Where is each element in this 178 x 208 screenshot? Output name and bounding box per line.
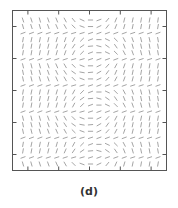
field-segment (48, 77, 50, 81)
field-segment (80, 150, 84, 153)
field-segment (56, 38, 57, 42)
field-segment (39, 64, 40, 68)
field-segment (149, 18, 150, 22)
field-segment (106, 45, 110, 48)
field-segment (23, 142, 24, 146)
field-segment (31, 116, 32, 120)
field-segment (80, 97, 84, 100)
field-segment (64, 25, 66, 29)
field-segment (147, 137, 151, 138)
field-segment (124, 64, 126, 68)
field-segment (139, 32, 143, 33)
field-segment (72, 32, 76, 33)
field-segment (149, 149, 150, 153)
field-segment (122, 111, 126, 113)
field-segment (22, 116, 23, 120)
field-segment (72, 77, 75, 80)
field-segment (123, 38, 125, 42)
field-segment (124, 129, 126, 133)
field-segment (114, 137, 118, 139)
field-segment (73, 103, 75, 107)
field-segment (141, 38, 142, 42)
field-segment (106, 117, 109, 120)
field-segment (21, 85, 25, 87)
field-segment (149, 123, 150, 127)
field-segment (122, 59, 126, 61)
field-segment (31, 64, 32, 68)
field-segment (105, 39, 109, 41)
field-segment (31, 162, 32, 166)
field-segment (97, 111, 101, 113)
field-segment (72, 85, 76, 86)
field-segment (114, 143, 117, 146)
field-segment (115, 116, 117, 120)
field-segment (23, 123, 24, 127)
field-segment (72, 123, 76, 126)
field-segment (80, 117, 84, 119)
field-segment (39, 51, 40, 55)
field-segment (132, 38, 134, 42)
field-segment (114, 85, 118, 87)
field-segment (64, 103, 66, 107)
field-segment (131, 137, 135, 138)
field-segment (64, 149, 66, 153)
field-segment (39, 44, 40, 48)
field-segment (115, 44, 118, 48)
field-segment (48, 64, 50, 68)
field-segment (55, 111, 59, 112)
field-segment (80, 131, 84, 133)
field-segment (72, 59, 76, 60)
field-segment (23, 77, 24, 81)
field-segment (124, 18, 125, 22)
field-segment (72, 117, 75, 120)
field-segment (149, 44, 150, 48)
field-segment (29, 157, 33, 159)
field-segment (63, 85, 67, 86)
field-segment (97, 117, 101, 119)
field-segment (64, 162, 66, 166)
field-segment (72, 64, 75, 67)
field-segment (97, 59, 101, 61)
field-segment (156, 32, 160, 34)
field-segment (23, 103, 24, 107)
field-segment (64, 123, 66, 127)
field-segment (23, 96, 24, 100)
field-segment (149, 77, 150, 81)
field-segment (158, 77, 159, 81)
field-segment (158, 142, 159, 146)
field-segment (122, 85, 126, 87)
field-segment (141, 24, 142, 28)
field-segment (31, 90, 32, 94)
field-segment (156, 85, 160, 87)
field-segment (115, 149, 118, 153)
field-segment (81, 38, 84, 41)
field-segment (29, 111, 33, 113)
field-segment (158, 103, 159, 107)
field-segment (31, 77, 32, 81)
field-segment (39, 123, 40, 127)
field-segment (147, 157, 151, 158)
field-segment (106, 150, 110, 153)
field-segment (105, 111, 109, 113)
field-segment (114, 104, 117, 107)
field-segment (105, 157, 109, 159)
field-segment (156, 59, 160, 61)
field-segment (81, 51, 84, 54)
field-segment (131, 157, 135, 158)
field-segment (124, 116, 126, 120)
field-segment (149, 70, 150, 74)
field-segment (156, 111, 160, 113)
field-segment (105, 32, 109, 34)
field-segment (149, 162, 150, 166)
field-segment (64, 142, 66, 146)
field-segment (31, 123, 32, 127)
field-segment (132, 24, 133, 28)
field-segment (23, 70, 24, 74)
field-segment (63, 157, 67, 158)
plot-frame (13, 11, 167, 171)
field-segment (114, 59, 118, 61)
field-segment (80, 137, 84, 138)
field-segment (48, 24, 50, 28)
field-segment (106, 130, 109, 133)
field-segment (55, 137, 59, 138)
